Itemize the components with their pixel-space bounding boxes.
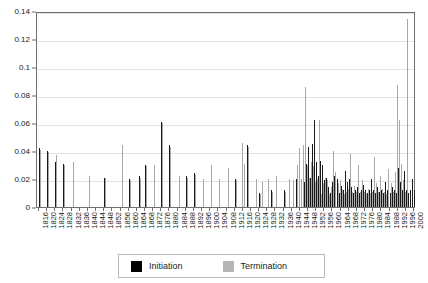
bar-initiation <box>375 193 376 207</box>
bar-initiation <box>390 193 391 207</box>
x-tick-label: 2000 <box>417 212 425 229</box>
chart-legend: Initiation Termination <box>118 254 325 278</box>
bar-initiation <box>304 182 305 207</box>
bars-layer <box>37 13 414 207</box>
y-tick-label: 0.12 <box>14 36 30 44</box>
x-tick-label: 1936 <box>287 212 295 229</box>
x-tick-mark <box>364 208 365 211</box>
bar-initiation <box>332 182 333 207</box>
bar-termination <box>203 179 204 207</box>
y-tick-label: 0.06 <box>14 120 30 128</box>
bar-initiation <box>367 193 368 207</box>
bar-initiation <box>145 165 146 207</box>
legend-item-initiation: Initiation <box>131 261 183 272</box>
bar-termination <box>289 179 290 207</box>
x-tick-label: 1960 <box>335 212 343 229</box>
bar-termination <box>170 147 171 207</box>
x-tick-mark <box>234 208 235 211</box>
bar-initiation <box>394 190 395 207</box>
bar-termination <box>244 164 245 207</box>
bar-initiation <box>359 193 360 207</box>
bar-initiation <box>308 147 309 207</box>
y-axis: 00.020.040.060.080.10.120.14 <box>0 12 36 208</box>
bar-initiation <box>347 182 348 207</box>
x-tick-mark <box>291 208 292 211</box>
x-tick-mark <box>226 208 227 211</box>
x-tick-mark <box>185 208 186 211</box>
x-tick-mark <box>79 208 80 211</box>
bar-termination <box>285 192 286 207</box>
bar-chart: 00.020.040.060.080.10.120.14 18161820182… <box>0 0 428 283</box>
x-tick-mark <box>323 208 324 211</box>
x-tick-mark <box>315 208 316 211</box>
bar-initiation <box>104 178 105 207</box>
x-tick-label: 1908 <box>230 212 238 229</box>
x-tick-mark <box>136 208 137 211</box>
x-tick-mark <box>242 208 243 211</box>
y-tick-label: 0.1 <box>19 64 30 72</box>
bar-termination <box>130 180 131 207</box>
x-tick-label: 1828 <box>66 212 74 229</box>
bar-termination <box>407 19 408 207</box>
bar-termination <box>179 176 180 207</box>
x-tick-mark <box>307 208 308 211</box>
bar-termination <box>195 175 196 207</box>
x-tick-mark <box>356 208 357 211</box>
bar-initiation <box>361 190 362 207</box>
bar-initiation <box>129 179 130 207</box>
bar-initiation <box>412 179 413 207</box>
x-tick-label: 1984 <box>384 212 392 229</box>
bar-termination <box>211 165 212 207</box>
bar-initiation <box>379 192 380 207</box>
x-tick-mark <box>283 208 284 211</box>
bar-termination <box>140 178 141 207</box>
bar-initiation <box>408 193 409 207</box>
bar-initiation <box>404 171 405 207</box>
x-tick-mark <box>380 208 381 211</box>
x-tick-mark <box>201 208 202 211</box>
bar-initiation <box>316 162 317 207</box>
x-tick-mark <box>389 208 390 211</box>
bar-termination <box>262 182 263 207</box>
bar-initiation <box>271 190 272 207</box>
y-tick-label: 0.02 <box>14 176 30 184</box>
x-tick-label: 1884 <box>181 212 189 229</box>
bar-initiation <box>406 190 407 207</box>
bar-initiation <box>320 161 321 207</box>
bar-initiation <box>355 190 356 207</box>
bar-initiation <box>47 151 48 207</box>
bar-termination <box>228 168 229 207</box>
x-tick-label: 1932 <box>278 212 286 229</box>
bar-initiation <box>343 190 344 207</box>
x-tick-mark <box>299 208 300 211</box>
bar-termination <box>256 179 257 207</box>
y-tick-label: 0.08 <box>14 92 30 100</box>
x-tick-mark <box>128 208 129 211</box>
x-tick-mark <box>46 208 47 211</box>
bar-termination <box>122 145 123 207</box>
bar-initiation <box>357 187 358 207</box>
bar-termination <box>268 179 269 207</box>
x-tick-mark <box>152 208 153 211</box>
x-tick-mark <box>160 208 161 211</box>
bar-initiation <box>194 173 195 207</box>
bar-termination <box>64 165 65 207</box>
x-tick-mark <box>193 208 194 211</box>
bar-initiation <box>169 145 170 207</box>
bar-termination <box>276 176 277 207</box>
bar-initiation <box>373 190 374 207</box>
bar-initiation <box>310 178 311 207</box>
bar-termination <box>146 166 147 207</box>
bar-termination <box>56 155 57 207</box>
x-tick-mark <box>209 208 210 211</box>
x-axis: 1816182018241828183218361840184418481852… <box>36 208 415 254</box>
bar-termination <box>40 150 41 207</box>
x-tick-mark <box>87 208 88 211</box>
x-tick-mark <box>348 208 349 211</box>
x-tick-mark <box>340 208 341 211</box>
bar-termination <box>248 147 249 207</box>
x-tick-mark <box>258 208 259 211</box>
y-tick-label: 0.04 <box>14 148 30 156</box>
legend-label-initiation: Initiation <box>149 261 183 271</box>
bar-initiation <box>387 190 388 207</box>
